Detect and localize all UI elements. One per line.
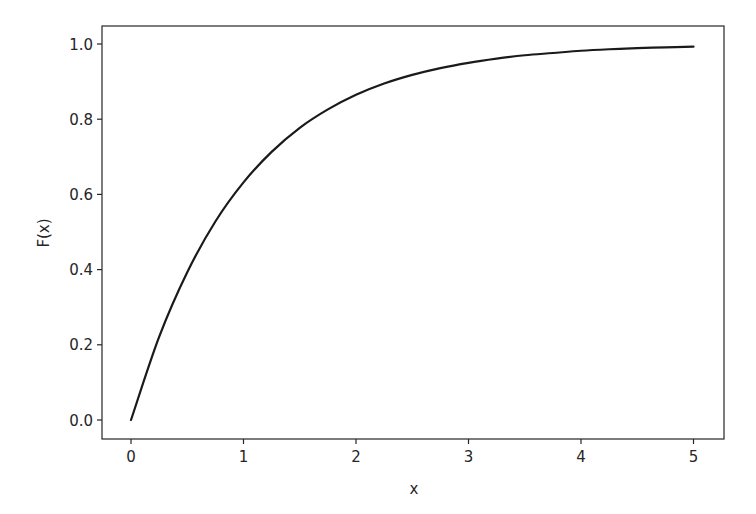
chart-canvas: 012345 0.00.20.40.60.81.0 x F(x) [0,0,756,514]
x-tick-label: 1 [239,448,249,466]
y-tick-label: 1.0 [69,36,93,54]
y-axis-ticks: 0.00.20.40.60.81.0 [69,36,102,430]
cdf-line [131,47,694,420]
x-axis-label: x [410,480,419,498]
x-tick-label: 5 [689,448,699,466]
x-tick-label: 4 [576,448,586,466]
y-axis-label: F(x) [35,218,53,247]
x-axis-ticks: 012345 [126,439,698,466]
x-tick-label: 3 [464,448,474,466]
x-tick-label: 0 [126,448,136,466]
y-tick-label: 0.2 [69,336,93,354]
y-tick-label: 0.4 [69,261,93,279]
x-tick-label: 2 [351,448,361,466]
y-tick-label: 0.8 [69,111,93,129]
axes-frame [102,26,724,439]
y-tick-label: 0.6 [69,186,93,204]
y-tick-label: 0.0 [69,412,93,430]
